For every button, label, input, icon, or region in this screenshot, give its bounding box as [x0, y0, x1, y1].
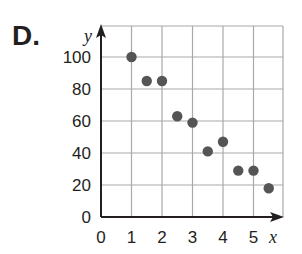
data-point: [248, 165, 258, 175]
data-point: [157, 76, 167, 86]
x-tick-label: 4: [218, 228, 227, 247]
data-point: [126, 52, 136, 62]
data-point: [233, 165, 243, 175]
data-point: [172, 111, 182, 121]
y-tick-label: 40: [72, 144, 91, 163]
y-tick-label: 100: [63, 48, 91, 67]
data-point: [187, 117, 197, 127]
x-tick-labels: 012345: [96, 228, 258, 247]
data-point: [218, 137, 228, 147]
scatter-plot: 012345 020406080100 x y: [0, 0, 302, 254]
y-tick-label: 80: [72, 80, 91, 99]
x-tick-label: 3: [188, 228, 197, 247]
y-tick-label: 20: [72, 176, 91, 195]
data-point: [142, 76, 152, 86]
y-tick-label: 0: [82, 208, 91, 227]
x-axis-label: x: [268, 227, 277, 247]
y-axis-label: y: [82, 26, 92, 46]
data-point: [203, 146, 213, 156]
x-tick-label: 0: [96, 228, 105, 247]
y-tick-label: 60: [72, 112, 91, 131]
y-tick-labels: 020406080100: [63, 48, 91, 227]
x-tick-label: 1: [127, 228, 136, 247]
x-tick-label: 5: [249, 228, 258, 247]
x-tick-label: 2: [157, 228, 166, 247]
data-points: [126, 52, 274, 194]
data-point: [264, 183, 274, 193]
